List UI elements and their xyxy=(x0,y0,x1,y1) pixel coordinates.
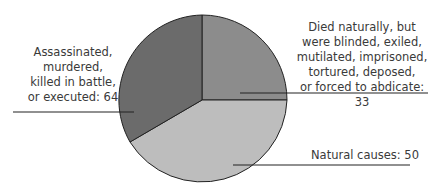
label-blinded: Died naturally, but were blinded, exiled… xyxy=(292,20,432,110)
slice-blinded-exiled xyxy=(202,15,287,100)
label-natural: Natural causes: 50 xyxy=(305,148,425,163)
label-assassinated: Assassinated, murdered, killed in battle… xyxy=(18,45,128,105)
